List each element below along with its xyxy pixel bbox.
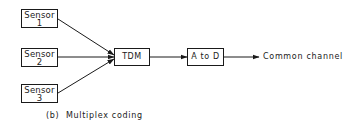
sensor-3-box: Sensor 3: [21, 84, 58, 103]
tdm-label: TDM: [122, 53, 142, 61]
sensor-2-box: Sensor 2: [21, 48, 58, 67]
arrow-sensor1-to-tdm: [58, 19, 114, 55]
sensor-3-number: 3: [37, 94, 42, 102]
tdm-box: TDM: [114, 48, 150, 66]
atod-label: A to D: [191, 53, 219, 61]
sensor-2-number: 2: [37, 58, 42, 66]
sensor-1-box: Sensor 1: [21, 9, 58, 28]
arrow-sensor3-to-tdm: [58, 59, 114, 93]
sensor-1-number: 1: [37, 19, 42, 27]
figure-caption: (b) Multiplex coding: [46, 111, 143, 120]
atod-box: A to D: [187, 48, 224, 66]
common-channel-label: Common channel: [263, 52, 343, 61]
